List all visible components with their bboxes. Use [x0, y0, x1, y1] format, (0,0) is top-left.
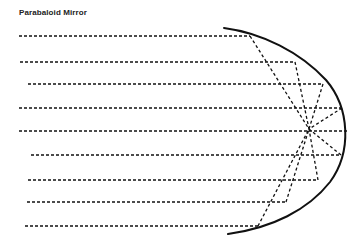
reflected-ray-1 [250, 36, 309, 129]
reflected-ray-6 [309, 129, 341, 155]
reflected-ray-3 [309, 84, 323, 129]
parabolic-mirror-diagram [0, 0, 361, 249]
incident-rays [19, 36, 348, 226]
reflected-ray-9 [258, 129, 309, 226]
reflected-ray-2 [295, 62, 309, 129]
